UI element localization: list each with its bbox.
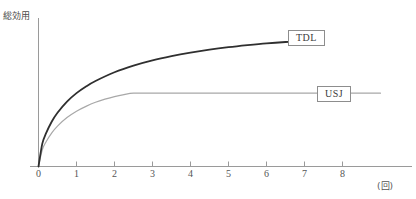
plot-area — [0, 0, 416, 199]
series-line-tdl — [39, 41, 320, 167]
x-axis-tick-label: 2 — [106, 168, 124, 179]
x-axis-tick-label: 3 — [144, 168, 162, 179]
series-label-tdl: TDL — [288, 30, 325, 46]
x-axis-tick-label: 6 — [258, 168, 276, 179]
x-axis-tick-label: 7 — [296, 168, 314, 179]
x-axis-tick-marks — [39, 162, 343, 167]
series-line-usj — [39, 93, 381, 166]
x-axis-tick-label: 5 — [220, 168, 238, 179]
x-axis-unit-label: (回) — [377, 179, 393, 192]
chart-container: 総効用 012345678 TDL USJ (回) — [0, 0, 416, 199]
x-axis-tick-label: 0 — [30, 168, 48, 179]
series-label-usj: USJ — [317, 86, 351, 102]
x-axis-tick-label: 1 — [68, 168, 86, 179]
x-axis-tick-label: 8 — [334, 168, 352, 179]
x-axis-tick-label: 4 — [182, 168, 200, 179]
